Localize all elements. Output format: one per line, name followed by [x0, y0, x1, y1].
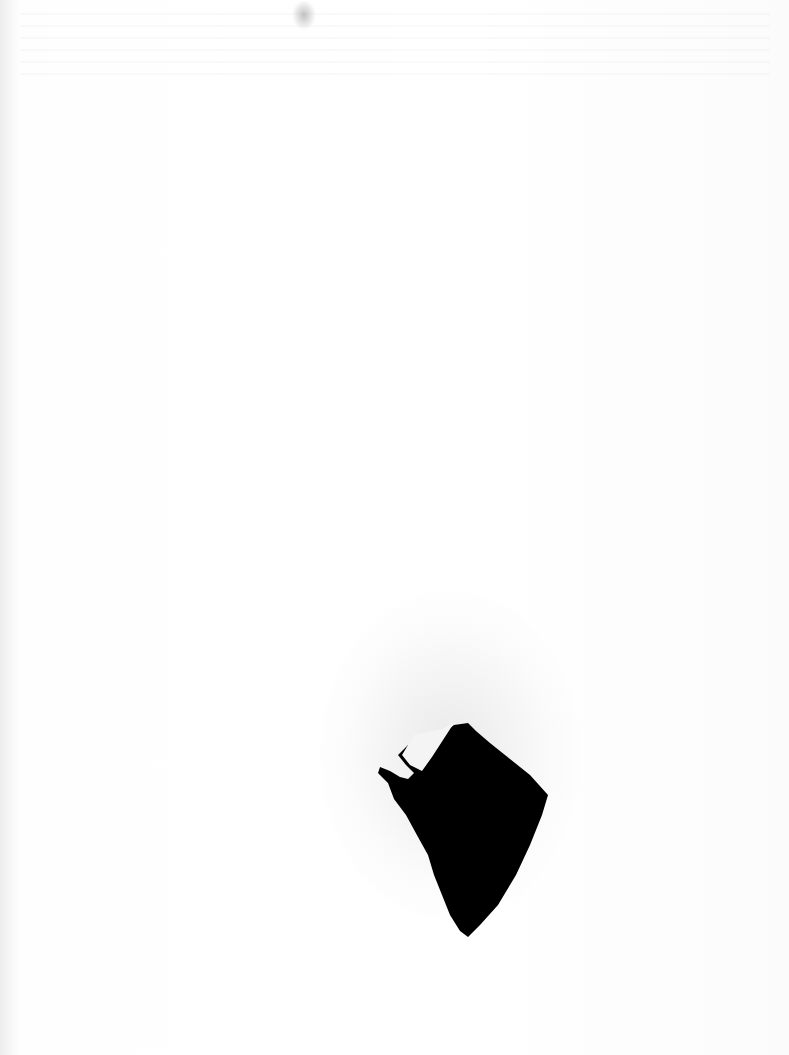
scanned-page	[0, 0, 789, 1055]
top-smudge	[292, 0, 316, 30]
torn-hole-icon	[370, 715, 555, 945]
bleed-through-text	[20, 5, 770, 75]
